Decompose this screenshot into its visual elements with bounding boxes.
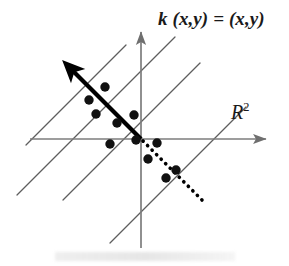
data-point bbox=[100, 82, 109, 91]
kernel-function-label: k (x,y) = (x,y) bbox=[158, 8, 265, 30]
figure-background bbox=[0, 0, 289, 266]
kernel-diagram-figure bbox=[0, 0, 289, 266]
data-point bbox=[143, 154, 152, 163]
diagram-canvas bbox=[0, 0, 289, 266]
data-point bbox=[131, 135, 140, 144]
data-point bbox=[84, 95, 93, 104]
data-point bbox=[152, 138, 161, 147]
data-point bbox=[161, 173, 170, 182]
data-point bbox=[171, 165, 180, 174]
input-space-label: R2 bbox=[231, 100, 249, 124]
input-space-exponent: 2 bbox=[243, 100, 249, 114]
data-point bbox=[112, 118, 121, 127]
data-point bbox=[91, 109, 100, 118]
input-space-base: R bbox=[231, 101, 243, 123]
data-point bbox=[105, 139, 114, 148]
data-point bbox=[129, 110, 138, 119]
